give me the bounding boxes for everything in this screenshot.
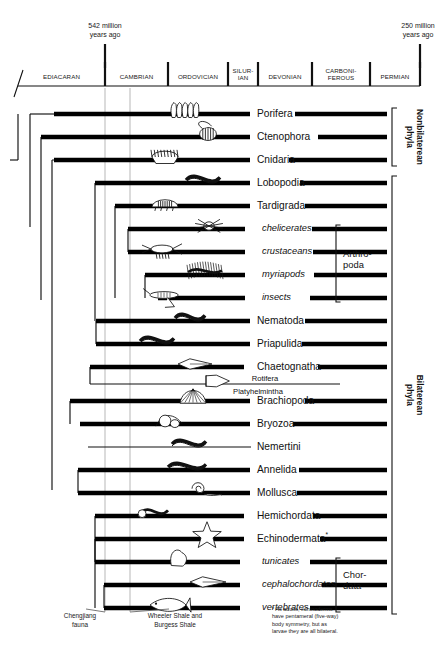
organism-illustrations	[138, 103, 229, 613]
period-label: SILUR-	[233, 67, 254, 74]
period-silurian: SILUR-IAN	[228, 62, 253, 86]
annotation-chengjiang: Chengjiangfauna	[64, 609, 105, 628]
bracket-label-line: phyla	[405, 384, 415, 406]
event-guide-lines	[105, 88, 130, 612]
bracket-label: Bilatereanphyla	[405, 375, 425, 416]
taxon-label-annelida: Annelida	[257, 464, 297, 475]
period-label: CARBONI-	[325, 67, 356, 74]
cladogram-branches	[10, 114, 158, 608]
taxon-label-crustaceans: crustaceans	[262, 246, 312, 256]
taxon-label-brachiopoda: Brachiopoda	[257, 395, 315, 406]
illustration-comb-jelly	[199, 121, 217, 140]
cladogram-svg: EDIACARANCAMBRIANORDOVICIANSILUR-IANDEVO…	[0, 0, 443, 665]
period-permian: PERMIAN	[370, 62, 409, 86]
bracket-stroke	[392, 176, 397, 614]
annotation-line: Chengjiang	[64, 612, 97, 620]
illustration-ribbon-worm	[172, 440, 206, 447]
footnote-line: body symmetry, but as	[272, 621, 327, 627]
period-label: CAMBRIAN	[120, 73, 153, 80]
bracket-label: Nonbilatereanphyla	[405, 109, 425, 165]
period-label: PERMIAN	[381, 73, 410, 80]
period-ediacaran: EDIACARAN	[43, 73, 80, 80]
period-devonian: DEVONIAN	[258, 62, 302, 86]
taxon-label-echinodermata: Echinodermata*	[257, 531, 329, 544]
period-cambrian: CAMBRIAN	[105, 62, 153, 86]
fossil-site-annotations: ChengjiangfaunaWheeler Shale andBurgess …	[64, 609, 203, 629]
illustration-grasshopper	[143, 289, 178, 308]
bracket-label-line: Bilaterean	[415, 375, 425, 416]
period-label: FEROUS	[328, 74, 354, 81]
period-label: ORDOVICIAN	[178, 73, 218, 80]
footnote: * As adults, echinodermshave pentameral …	[272, 606, 339, 634]
taxon-label-insects: insects	[262, 292, 291, 302]
bracket-nonbilaterean: Nonbilatereanphyla	[392, 108, 425, 166]
bracket-bilaterean: Bilatereanphyla	[392, 176, 425, 614]
timeline-start-slash	[14, 70, 23, 97]
period-label: DEVONIAN	[268, 73, 301, 80]
period-label: IAN	[238, 74, 249, 81]
taxon-label-tunicates: tunicates	[262, 556, 300, 566]
bracket-stroke	[336, 225, 341, 302]
taxon-label-chaetognatha: Chaetognatha	[257, 361, 321, 372]
bracket-arthropoda: Arthro-poda	[336, 225, 372, 302]
figure-root: EDIACARANCAMBRIANORDOVICIANSILUR-IANDEVO…	[0, 0, 443, 665]
taxon-label-nemertini: Nemertini	[257, 441, 301, 452]
illustration-rotifer	[206, 375, 229, 387]
bracket-label-line: Chor-	[343, 569, 366, 580]
annotation-wheeler-burgess: Wheeler Shale andBurgess Shale	[130, 609, 203, 629]
taxon-label-ctenophora: Ctenophora	[257, 131, 311, 142]
annotation-line: Wheeler Shale and	[148, 612, 203, 619]
taxon-label-chelicerates: chelicerates	[262, 223, 312, 233]
illustration-brachiopod	[180, 389, 206, 403]
taxon-label-myriapods: myriapods	[262, 269, 305, 279]
right-age-line1: 250 million	[401, 22, 435, 29]
annotation-line: Burgess Shale	[154, 621, 196, 629]
footnote-line: have pentameral (five-way)	[272, 613, 339, 619]
taxon-label-mollusca: Mollusca	[257, 487, 298, 498]
bracket-label-line: Nonbilaterean	[415, 109, 425, 165]
taxon-label-priapulida: Priapulida	[257, 338, 303, 349]
illustration-jellyfish	[151, 150, 178, 164]
bracket-stroke	[392, 108, 397, 166]
taxon-label-hemichordata: Hemichordata	[257, 510, 321, 521]
period-label: EDIACARAN	[43, 73, 80, 80]
footnote-line: * As adults, echinoderms	[272, 606, 333, 612]
period-carboniferous: CARBONI-FEROUS	[312, 62, 357, 86]
taxon-label-cnidaria: Cnidaria	[257, 154, 295, 165]
illustration-tunicate	[171, 550, 187, 566]
bracket-label-line: phyla	[405, 126, 415, 148]
bracket-label-line: poda	[343, 259, 365, 270]
geologic-timeline: EDIACARANCAMBRIANORDOVICIANSILUR-IANDEVO…	[14, 22, 435, 97]
taxon-label-cephalochordates: cephalochordates	[262, 579, 336, 589]
illustration-tardigrade	[152, 200, 178, 211]
bracket-label-line: data	[343, 580, 362, 591]
taxon-label-tardigrada: Tardigrada	[257, 200, 305, 211]
illustration-starfish	[193, 522, 222, 548]
illustration-sponge	[171, 103, 199, 118]
footnote-line: larvae they are all bilateral.	[272, 628, 338, 634]
left-age-line2: years ago	[90, 31, 121, 39]
taxon-label-lobopodia: Lobopodia	[257, 177, 305, 188]
taxon-label-porifera: Porifera	[257, 108, 293, 119]
taxon-label-rotifera: Rotifera	[252, 374, 279, 383]
taxon-label-nematoda: Nematoda	[257, 315, 304, 326]
period-ordovician: ORDOVICIAN	[168, 62, 218, 86]
right-age-line2: years ago	[403, 31, 434, 39]
bracket-label-line: Arthro-	[343, 248, 372, 259]
taxon-label-bryozoa: Bryozoa	[257, 418, 295, 429]
annotation-line: fauna	[72, 621, 88, 628]
left-age-line1: 542 million	[88, 22, 122, 29]
